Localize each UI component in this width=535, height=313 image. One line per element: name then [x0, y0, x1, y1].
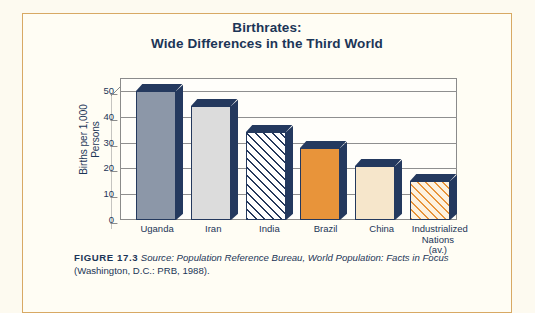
chart-title-line-1: Birthrates:: [22, 20, 512, 36]
bar-front-face: [191, 106, 231, 220]
x-axis-label-line: Industrialized: [412, 224, 464, 235]
bar-side-face: [231, 100, 238, 220]
caption-work-title-part1: World Population: Facts in: [308, 252, 420, 263]
x-axis-label-line: Iran: [187, 224, 239, 235]
bar-side-face: [176, 85, 183, 220]
bar-top-face: [191, 99, 237, 106]
bar-side-face: [340, 141, 347, 220]
bar-top-face: [300, 141, 346, 148]
bar-front-face: [300, 148, 340, 220]
chart-title-line-2: Wide Differences in the Third World: [22, 36, 512, 52]
bar-front-face: [136, 91, 176, 220]
bar-top-face: [246, 125, 292, 132]
bar-front-face: [355, 166, 395, 220]
caption-publication-info: (Washington, D.C.: PRB, 1988).: [74, 265, 210, 276]
bar-india[interactable]: [246, 132, 286, 220]
bar-slot: [134, 78, 178, 220]
bar-slot: [353, 78, 397, 220]
y-axis-title: Births per 1,000 Persons: [78, 85, 101, 195]
bar-iran[interactable]: [191, 106, 231, 220]
x-axis-label-line: Uganda: [131, 224, 183, 235]
bar-front-face: [246, 132, 286, 220]
x-axis-label-line: Brazil: [300, 224, 352, 235]
bar-slot: [408, 78, 452, 220]
chart-title: Birthrates: Wide Differences in the Thir…: [22, 20, 512, 52]
bar-top-face: [136, 84, 182, 91]
bar-slot: [244, 78, 288, 220]
bar-industrialized[interactable]: [410, 181, 450, 220]
bar-uganda[interactable]: [136, 91, 176, 220]
caption-figure-number: FIGURE 17.3: [74, 252, 138, 263]
bar-side-face: [395, 159, 402, 220]
bar-china[interactable]: [355, 166, 395, 220]
y-axis-title-line-1: Births per 1,000: [78, 85, 90, 195]
caption-source-text: Source: Population Reference Bureau,: [141, 252, 308, 263]
x-axis-label-line: India: [243, 224, 295, 235]
figure-caption: FIGURE 17.3 Source: Population Reference…: [74, 252, 469, 277]
bar-top-face: [355, 159, 401, 166]
caption-work-title-part2: Focus: [422, 252, 448, 263]
bar-front-face: [410, 181, 450, 220]
bar-slot: [189, 78, 233, 220]
bar-side-face: [450, 175, 457, 220]
y-axis-title-line-2: Persons: [89, 85, 101, 195]
chart-plot-area: 01020304050 Births per 1,000 Persons: [120, 78, 457, 220]
bar-slot: [298, 78, 342, 220]
x-axis-label-line: China: [356, 224, 408, 235]
bar-top-face: [410, 174, 456, 181]
bar-brazil[interactable]: [300, 148, 340, 220]
bar-side-face: [286, 126, 293, 220]
bar-series: [129, 78, 457, 220]
